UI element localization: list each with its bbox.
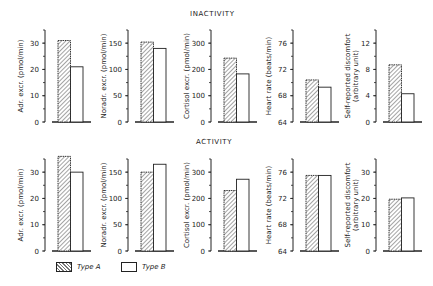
tick-label: 30 (30, 169, 39, 177)
chart-panel: 64687276Heart rate (beats/min) (265, 159, 339, 256)
y-axis-label: Noradr. excr. (pmol/min) (100, 162, 108, 247)
tick-label: 10 (30, 92, 39, 100)
tick-label: 0 (35, 119, 39, 127)
y-axis-label: Adr. excr. (pmol/min) (17, 168, 25, 241)
bar-type-b (237, 179, 250, 251)
y-axis-label: Self-reported discomfort (344, 162, 352, 247)
tick-label: 10 (30, 221, 39, 229)
legend-label-type-b: Type B (142, 263, 166, 271)
tick-label: 0 (35, 248, 39, 256)
chart-panel: 04812Self-reported discomfort(arbitrary … (344, 30, 422, 127)
tick-label: 20 (30, 195, 39, 203)
tick-label: 4 (366, 92, 371, 100)
y-axis-label: Heart rate (beats/min) (265, 165, 273, 244)
chart-panel: 0100200300Cortisol excr. (pmol/min) (183, 30, 257, 127)
tick-label: 0 (366, 248, 370, 256)
y-axis-label: (arbitrary unit) (352, 179, 360, 231)
tick-label: 200 (192, 66, 205, 74)
tick-label: 100 (192, 221, 205, 229)
tick-label: 100 (109, 66, 122, 74)
hatched-swatch-icon (56, 262, 72, 272)
tick-label: 50 (113, 92, 122, 100)
tick-label: 72 (278, 66, 287, 74)
tick-label: 0 (201, 119, 205, 127)
plain-swatch-icon (121, 262, 137, 272)
bar-type-a (58, 156, 71, 251)
chart-panel: 050100150Noradr. excr. (pmol/min) (100, 159, 174, 256)
bar-type-a (58, 41, 71, 122)
tick-label: 20 (361, 195, 370, 203)
chart-panel: 0102030Adr. excr. (pmol/min) (17, 30, 91, 127)
bar-type-b (402, 198, 415, 251)
bar-type-b (319, 87, 332, 122)
tick-label: 68 (278, 221, 287, 229)
bar-type-a (389, 65, 402, 122)
legend-type-a: Type A (56, 262, 101, 272)
tick-label: 76 (278, 169, 287, 177)
bar-type-a (224, 191, 237, 251)
tick-label: 10 (361, 221, 370, 229)
bar-type-a (141, 172, 154, 251)
bar-chart-grid: 0102030Adr. excr. (pmol/min)050100150Nor… (0, 0, 433, 286)
bar-type-b (71, 67, 84, 122)
tick-label: 76 (278, 40, 287, 48)
bar-type-a (141, 42, 154, 122)
chart-panel: 64687276Heart rate (beats/min) (265, 30, 339, 127)
chart-panel: 0100200300Cortisol excr. (pmol/min) (183, 159, 257, 256)
tick-label: 200 (192, 195, 205, 203)
bar-type-b (237, 74, 250, 122)
y-axis-label: (arbitrary unit) (352, 50, 360, 102)
y-axis-label: Noradr. excr. (pmol/min) (100, 33, 108, 118)
legend-label-type-a: Type A (77, 263, 101, 271)
tick-label: 64 (278, 119, 287, 127)
tick-label: 12 (361, 40, 370, 48)
tick-label: 0 (118, 248, 122, 256)
bar-type-a (306, 175, 319, 251)
bar-type-b (402, 94, 415, 122)
y-axis-label: Heart rate (beats/min) (265, 36, 273, 115)
chart-panel: 0102030Self-reported discomfort(arbitrar… (344, 159, 422, 256)
tick-label: 100 (109, 195, 122, 203)
tick-label: 150 (109, 40, 122, 48)
tick-label: 300 (192, 40, 205, 48)
bar-type-a (224, 58, 237, 122)
chart-panel: 0102030Adr. excr. (pmol/min) (17, 156, 91, 255)
tick-label: 0 (118, 119, 122, 127)
bar-type-a (389, 199, 402, 251)
tick-label: 8 (366, 66, 370, 74)
bar-type-b (71, 172, 84, 251)
y-axis-label: Cortisol excr. (pmol/min) (183, 33, 191, 119)
tick-label: 30 (361, 169, 370, 177)
tick-label: 0 (366, 119, 370, 127)
y-axis-label: Adr. excr. (pmol/min) (17, 39, 25, 112)
bar-type-b (154, 48, 167, 122)
tick-label: 150 (109, 169, 122, 177)
y-axis-label: Self-reported discomfort (344, 33, 352, 118)
tick-label: 68 (278, 92, 287, 100)
tick-label: 50 (113, 221, 122, 229)
chart-panel: 050100150Noradr. excr. (pmol/min) (100, 30, 174, 127)
tick-label: 100 (192, 92, 205, 100)
bar-type-b (154, 164, 167, 251)
tick-label: 30 (30, 40, 39, 48)
y-axis-label: Cortisol excr. (pmol/min) (183, 162, 191, 248)
tick-label: 0 (201, 248, 205, 256)
tick-label: 20 (30, 66, 39, 74)
legend-type-b: Type B (121, 262, 166, 272)
bar-type-b (319, 175, 332, 251)
bar-type-a (306, 80, 319, 122)
tick-label: 64 (278, 248, 287, 256)
tick-label: 300 (192, 169, 205, 177)
tick-label: 72 (278, 195, 287, 203)
